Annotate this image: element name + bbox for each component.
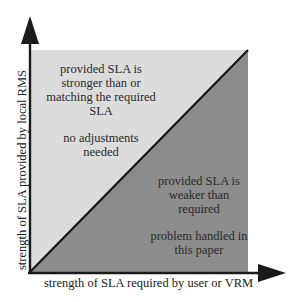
upper-note-2: needed	[45, 145, 157, 159]
upper-line-2: stronger than or	[45, 76, 157, 90]
lower-region-text: provided SLA is weaker than required pro…	[148, 174, 250, 257]
y-axis-label: strength of SLA provided by local RMS	[15, 50, 30, 270]
upper-region-text: provided SLA is stronger than or matchin…	[45, 62, 157, 159]
lower-line-1: provided SLA is	[148, 174, 250, 188]
lower-line-3: required	[148, 202, 250, 216]
upper-note-1: no adjustments	[45, 131, 157, 145]
x-axis-label: strength of SLA required by user or VRM	[44, 276, 264, 291]
upper-line-1: provided SLA is	[45, 62, 157, 76]
y-axis-arrowhead-icon	[21, 16, 39, 44]
lower-note-2: this paper	[148, 243, 250, 257]
lower-note-1: problem handled in	[148, 229, 250, 243]
upper-line-3: matching the required	[45, 90, 157, 104]
sla-diagram: provided SLA is stronger than or matchin…	[0, 0, 296, 302]
upper-line-4: SLA	[45, 104, 157, 118]
lower-line-2: weaker than	[148, 188, 250, 202]
